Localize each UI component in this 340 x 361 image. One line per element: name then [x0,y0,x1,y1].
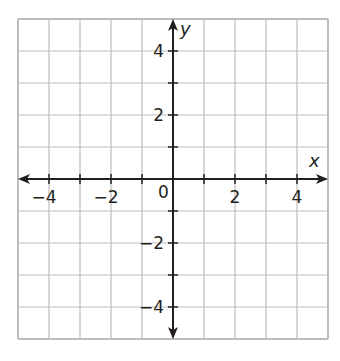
coordinate-plane: −4−22442−2−4 x y 0 [0,0,340,361]
y-tick-label: 4 [153,41,164,61]
x-tick-label: −2 [93,187,118,207]
origin-label: 0 [158,182,169,202]
y-axis-label: y [179,18,191,39]
y-tick-label: 2 [153,105,164,125]
axes [18,19,328,339]
y-tick-label: −4 [139,297,164,317]
x-tick-label: 4 [292,187,303,207]
x-tick-label: −4 [31,187,56,207]
y-tick-label: −2 [139,233,164,253]
x-axis-label: x [308,150,320,171]
x-tick-label: 2 [230,187,241,207]
